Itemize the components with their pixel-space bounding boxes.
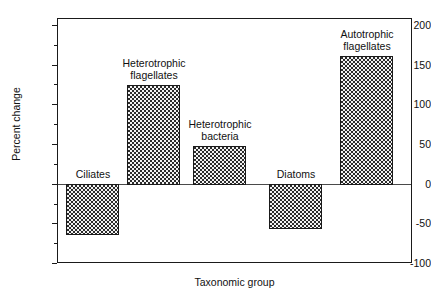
bar-label-diatoms-line1: Diatoms [256,169,336,181]
bar-label-heterotrophic-flagellates-line1: Heterotrophic [104,58,204,70]
bar-label-autotrophic-flagellates-line2: flagellates [317,41,417,53]
bar-label-heterotrophic-bacteria-line1: Heterotrophic [170,119,270,131]
bar-chart: Percent change 200 150 100 50 0 -50 -100… [0,0,431,299]
bar-label-autotrophic-flagellates-line1: Autotrophic [317,29,417,41]
bar-ciliates [66,184,119,235]
y-tick-neg100 [52,263,57,264]
bar-label-diatoms: Diatoms [256,169,336,181]
bar-label-ciliates-line1: Ciliates [53,169,133,181]
bar-label-heterotrophic-flagellates-line2: flagellates [104,70,204,82]
bar-label-ciliates: Ciliates [53,169,133,181]
x-axis-title: Taxonomic group [57,276,412,288]
y-axis-title: Percent change [10,64,22,184]
bar-label-heterotrophic-bacteria-line2: bacteria [170,131,270,143]
bar-diatoms [269,184,322,229]
bar-label-autotrophic-flagellates: Autotrophic flagellates [317,29,417,52]
bar-label-heterotrophic-flagellates: Heterotrophic flagellates [104,58,204,81]
bar-label-heterotrophic-bacteria: Heterotrophic bacteria [170,119,270,142]
bar-heterotrophic-bacteria [193,146,246,185]
bar-autotrophic-flagellates [340,56,393,185]
